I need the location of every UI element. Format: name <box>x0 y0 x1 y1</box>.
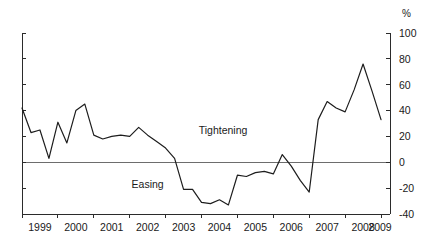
x-tick-label: 1999 <box>28 221 52 233</box>
y-tick-label: -20 <box>399 182 414 194</box>
chart-annotations: TighteningEasing <box>132 124 248 190</box>
y-tick-label: 60 <box>399 79 411 91</box>
x-tick-label: 2000 <box>64 221 88 233</box>
x-tick-label: 2005 <box>244 221 268 233</box>
x-tick-label: 2001 <box>100 221 124 233</box>
y-tick-label: 40 <box>399 104 411 116</box>
y-tick-label: 20 <box>399 130 411 142</box>
y-axis-tick-labels: 100806040200-20-40 <box>399 27 417 220</box>
y-tick-label: 100 <box>399 27 417 39</box>
annotation-easing: Easing <box>132 178 164 190</box>
chart-container: 100806040200-20-40 199920002001200220032… <box>0 0 437 250</box>
y-axis-unit-label: % <box>402 8 411 19</box>
x-axis-tick-labels: 1999200020012002200320042005200620072008… <box>28 221 392 233</box>
x-tick-label: 2002 <box>136 221 160 233</box>
x-tick-label: 2004 <box>208 221 232 233</box>
x-tick-label: 2003 <box>172 221 196 233</box>
x-tick-label: 2006 <box>280 221 304 233</box>
y-tick-label: 0 <box>399 156 405 168</box>
x-axis-ticks <box>22 214 381 218</box>
y-tick-label: 80 <box>399 53 411 65</box>
line-chart: 100806040200-20-40 199920002001200220032… <box>0 0 437 250</box>
x-tick-label: 2007 <box>315 221 339 233</box>
y-tick-label: -40 <box>399 208 414 220</box>
annotation-tightening: Tightening <box>199 124 248 136</box>
x-tick-label: 2009 <box>368 221 392 233</box>
